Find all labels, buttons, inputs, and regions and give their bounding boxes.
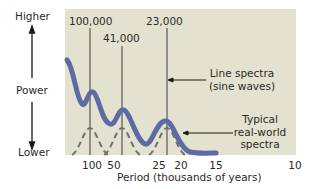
annotation-typical-line3: spectra: [232, 139, 288, 150]
x-tick-100: 100: [82, 159, 102, 171]
x-tick-15: 15: [209, 159, 222, 171]
annotation-line-spectra: Line spectra (sine waves): [208, 68, 276, 91]
annotation-typical: Typical real-world spectra: [232, 114, 288, 150]
peak-label-100000: 100,000: [69, 16, 112, 27]
peak-label-41000: 41,000: [103, 33, 140, 44]
x-tick-25: 25: [152, 159, 165, 171]
y-label-higher: Higher: [15, 11, 50, 22]
peak-label-23000: 23,000: [146, 16, 183, 27]
y-label-power: Power: [16, 85, 48, 96]
x-tick-10: 10: [288, 159, 301, 171]
annotation-line-spectra-line1: Line spectra: [208, 68, 276, 79]
x-axis-label: Period (thousands of years): [117, 172, 262, 183]
y-label-lower: Lower: [18, 147, 49, 158]
x-tick-20: 20: [174, 159, 187, 171]
dashed-peaks: [72, 128, 185, 155]
x-tick-50: 50: [107, 159, 120, 171]
annotation-typical-line2: real-world: [232, 127, 288, 138]
annotation-typical-line1: Typical: [232, 114, 288, 125]
annotation-line-spectra-line2: (sine waves): [208, 81, 276, 92]
